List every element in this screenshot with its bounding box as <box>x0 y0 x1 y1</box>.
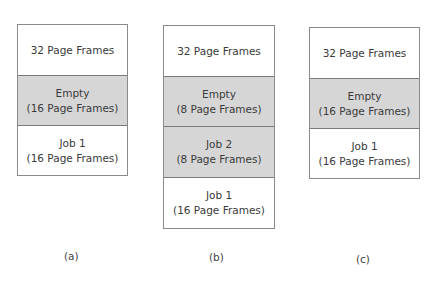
caption-b: (b) <box>209 251 224 263</box>
cell-label: Job 2 <box>206 137 232 152</box>
cell-empty: Empty (8 Page Frames) <box>164 76 274 126</box>
cell-sublabel: (16 Page Frames) <box>173 203 265 218</box>
cell-empty: Empty (16 Page Frames) <box>310 78 419 128</box>
memory-stack-a: 32 Page Frames Empty (16 Page Frames) Jo… <box>17 24 128 176</box>
cell-sublabel: (8 Page Frames) <box>176 152 261 167</box>
cell-label: 32 Page Frames <box>323 46 407 61</box>
memory-stack-b: 32 Page Frames Empty (8 Page Frames) Job… <box>163 25 275 229</box>
cell-label: Job 1 <box>206 188 232 203</box>
cell-empty: Empty (16 Page Frames) <box>18 75 127 125</box>
cell-label: Job 1 <box>351 139 377 154</box>
memory-stack-c: 32 Page Frames Empty (16 Page Frames) Jo… <box>309 27 420 179</box>
cell-label: 32 Page Frames <box>31 43 115 58</box>
cell-sublabel: (16 Page Frames) <box>27 151 119 166</box>
cell-page-frames: 32 Page Frames <box>18 25 127 75</box>
caption-c: (c) <box>356 253 370 265</box>
cell-sublabel: (16 Page Frames) <box>319 154 411 169</box>
cell-job1: Job 1 (16 Page Frames) <box>310 128 419 178</box>
cell-page-frames: 32 Page Frames <box>164 26 274 76</box>
cell-label: Empty <box>348 89 382 104</box>
cell-label: 32 Page Frames <box>177 44 261 59</box>
cell-label: Empty <box>202 87 236 102</box>
cell-label: Job 1 <box>59 136 85 151</box>
caption-a: (a) <box>64 250 79 262</box>
cell-sublabel: (8 Page Frames) <box>176 102 261 117</box>
cell-job2: Job 2 (8 Page Frames) <box>164 126 274 177</box>
cell-sublabel: (16 Page Frames) <box>319 104 411 119</box>
cell-job1: Job 1 (16 Page Frames) <box>164 177 274 228</box>
cell-sublabel: (16 Page Frames) <box>27 101 119 116</box>
cell-page-frames: 32 Page Frames <box>310 28 419 78</box>
cell-job1: Job 1 (16 Page Frames) <box>18 125 127 175</box>
cell-label: Empty <box>56 86 90 101</box>
